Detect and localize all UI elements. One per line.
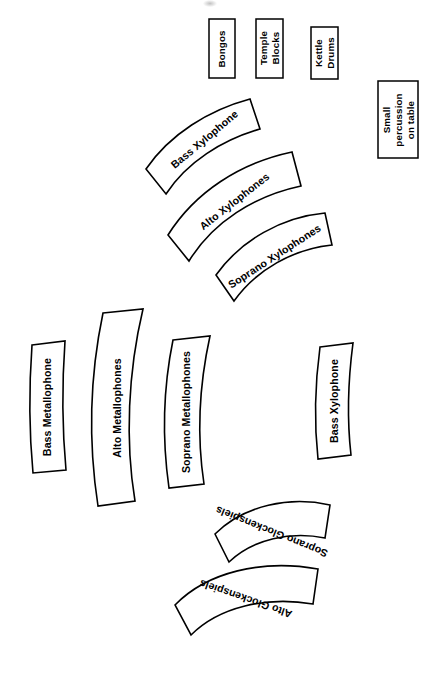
instrument-bar-bass-metallophone[interactable]: Bass Metallophone [30,341,66,473]
percussion-box-bongos-label: Bongos [216,30,227,68]
percussion-box-kettle-drums-label-line2: Drums [325,37,336,69]
instrument-bar-soprano-xylophones[interactable]: Soprano Xylophones [216,213,332,301]
percussion-box-kettle-drums-label-line1: Kettle [313,39,324,67]
percussion-box-small-percussion-label-line3: on table [405,100,416,139]
percussion-box-small-percussion[interactable]: Small percussion on table [378,81,418,158]
ensemble-seating-diagram: Bongos Temple Blocks Kettle Drums Small … [0,0,427,675]
percussion-box-temple-blocks[interactable]: Temple Blocks [256,19,283,78]
instrument-bar-bass-xylophone-right-label: Bass Xylophone [328,359,340,443]
instrument-bar-alto-metallophones-label: Alto Metallophones [111,358,123,458]
instrument-bar-bass-metallophone-label: Bass Metallophone [41,358,53,456]
percussion-box-bongos[interactable]: Bongos [209,19,235,78]
instrument-bar-alto-glockenspiels[interactable]: Alto Glockenspiels [175,566,318,635]
instrument-bar-soprano-metallophones[interactable]: Soprano Metallophones [164,336,210,488]
diagram-canvas: Bongos Temple Blocks Kettle Drums Small … [0,0,427,675]
instrument-bar-alto-metallophones[interactable]: Alto Metallophones [92,309,143,506]
percussion-box-kettle-drums[interactable]: Kettle Drums [311,27,338,79]
percussion-box-small-percussion-label-line1: Small [381,107,392,134]
percussion-box-temple-blocks-label-line1: Temple [258,30,269,65]
percussion-box-temple-blocks-label-line2: Blocks [270,31,281,64]
instrument-bar-bass-xylophone-right[interactable]: Bass Xylophone [316,343,353,459]
instrument-bar-soprano-glockenspiels[interactable]: Soprano Glockenspiels [214,502,330,562]
instrument-bar-soprano-metallophones-label: Soprano Metallophones [180,351,192,473]
percussion-box-small-percussion-label-line2: percussion [393,93,404,146]
